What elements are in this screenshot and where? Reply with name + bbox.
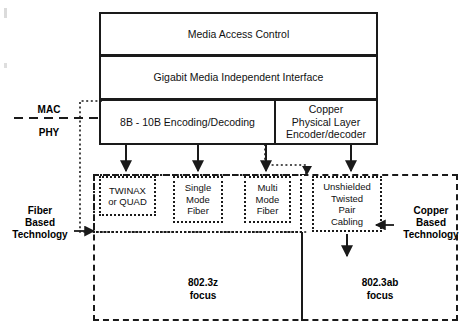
phy-boundary-label: PHY: [22, 127, 76, 139]
fiber-based-line3: Technology: [12, 229, 67, 240]
phy-label-text: PHY: [39, 127, 60, 138]
scan-artifact: [4, 8, 7, 18]
802-3ab-focus-label: 802.3ab focus: [335, 277, 425, 302]
fiber-based-line1: Fiber: [28, 205, 52, 216]
802-3z-focus-label: 802.3z focus: [158, 277, 248, 302]
media-access-control-label: Media Access Control: [188, 28, 290, 41]
focus-region-divider-lower: [301, 232, 303, 321]
802-3z-focus-word: focus: [190, 290, 217, 301]
802-3ab-focus-word: focus: [367, 290, 394, 301]
gmii-box: Gigabit Media Independent Interface: [99, 55, 378, 100]
802-3z-standard: 802.3z: [188, 277, 218, 288]
diagram-canvas: Media Access Control Gigabit Media Indep…: [0, 0, 474, 335]
scan-artifact: [4, 63, 7, 68]
fiber-region-right-dotted-edge: [300, 174, 302, 233]
media-access-control-box: Media Access Control: [99, 12, 378, 56]
fiber-based-line2: Based: [25, 217, 55, 228]
802-3ab-standard: 802.3ab: [362, 277, 399, 288]
fiber-based-technology-label: Fiber Based Technology: [4, 205, 76, 241]
gmii-label: Gigabit Media Independent Interface: [154, 71, 324, 84]
